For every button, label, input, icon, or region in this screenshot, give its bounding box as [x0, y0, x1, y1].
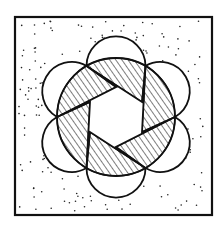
geometric-diagram	[0, 0, 223, 230]
